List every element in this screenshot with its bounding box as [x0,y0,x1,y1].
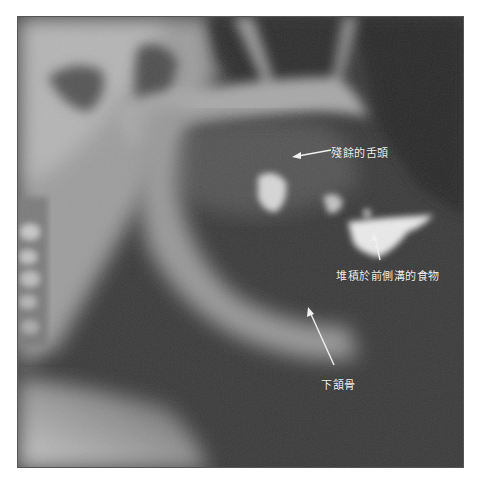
xray-image: 殘餘的舌頭 堆積於前側溝的食物 下頷骨 [17,16,464,468]
xray-graphic [18,17,464,468]
label-mandible: 下頷骨 [321,376,356,392]
film-grain [18,17,464,468]
label-food-anterior-sulcus: 堆積於前側溝的食物 [336,267,440,283]
label-residual-tongue: 殘餘的舌頭 [331,144,389,160]
